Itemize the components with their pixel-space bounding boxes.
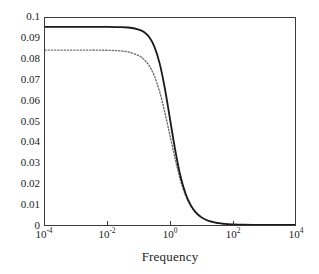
y-tick-label: 0.05 — [21, 116, 40, 127]
y-tick-label: 0.07 — [21, 74, 40, 85]
dotted-curve — [45, 50, 295, 225]
y-tick-label: 0.08 — [21, 53, 40, 64]
x-tick-mark — [107, 221, 108, 226]
x-tick-exponent: 2 — [237, 226, 241, 235]
x-tick-exponent: -2 — [109, 226, 115, 235]
solid-curve — [45, 27, 295, 225]
y-tick-label: 0.03 — [21, 157, 40, 168]
figure-container: 00.010.020.030.040.050.060.070.080.090.1… — [0, 0, 319, 274]
x-tick-mark — [233, 221, 234, 226]
y-tick-label: 0.02 — [21, 178, 40, 189]
x-tick-label: 10-4 — [35, 229, 52, 240]
x-tick-exponent: 4 — [300, 226, 304, 235]
x-tick-label: 102 — [226, 229, 241, 240]
x-tick-label: 104 — [289, 229, 304, 240]
x-tick-exponent: -4 — [46, 226, 52, 235]
y-tick-label: 0.01 — [21, 199, 40, 210]
x-tick-mark — [170, 221, 171, 226]
y-tick-label: 0.06 — [21, 95, 40, 106]
plot-area — [44, 17, 296, 226]
y-tick-label: 0.1 — [26, 11, 40, 22]
curve-canvas — [45, 18, 295, 225]
y-tick-label: 0.09 — [21, 32, 40, 43]
x-tick-label: 10-2 — [98, 229, 115, 240]
y-axis-labels: 00.010.020.030.040.050.060.070.080.090.1 — [0, 0, 40, 274]
y-tick-label: 0.04 — [21, 136, 40, 147]
x-tick-exponent: 0 — [174, 226, 178, 235]
x-tick-label: 100 — [163, 229, 178, 240]
x-axis-title: Frequency — [44, 249, 296, 265]
